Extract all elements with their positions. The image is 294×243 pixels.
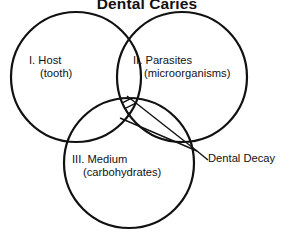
set-label-medium-line1: III. Medium	[72, 153, 127, 165]
page-title: Dental Caries	[0, 0, 294, 11]
dental-caries-venn-figure: Dental Caries I. Host (tooth) II. Parasi…	[0, 0, 294, 243]
annotation-label-dental-decay: Dental Decay	[208, 152, 275, 165]
set-label-host-line2: (tooth)	[29, 67, 72, 80]
set-label-host-line1: I. Host	[29, 54, 61, 66]
set-label-parasites-line1: II. Parasites	[133, 54, 192, 66]
set-label-parasites-line2: (microorganisms)	[133, 67, 230, 80]
set-label-parasites: II. Parasites (microorganisms)	[133, 54, 230, 79]
venn-diagram-svg	[0, 0, 294, 243]
set-label-host: I. Host (tooth)	[29, 54, 72, 79]
set-label-medium: III. Medium (carbohydrates)	[72, 153, 161, 178]
set-label-medium-line2: (carbohydrates)	[72, 166, 161, 179]
triple-intersection-hatch	[100, 70, 170, 156]
